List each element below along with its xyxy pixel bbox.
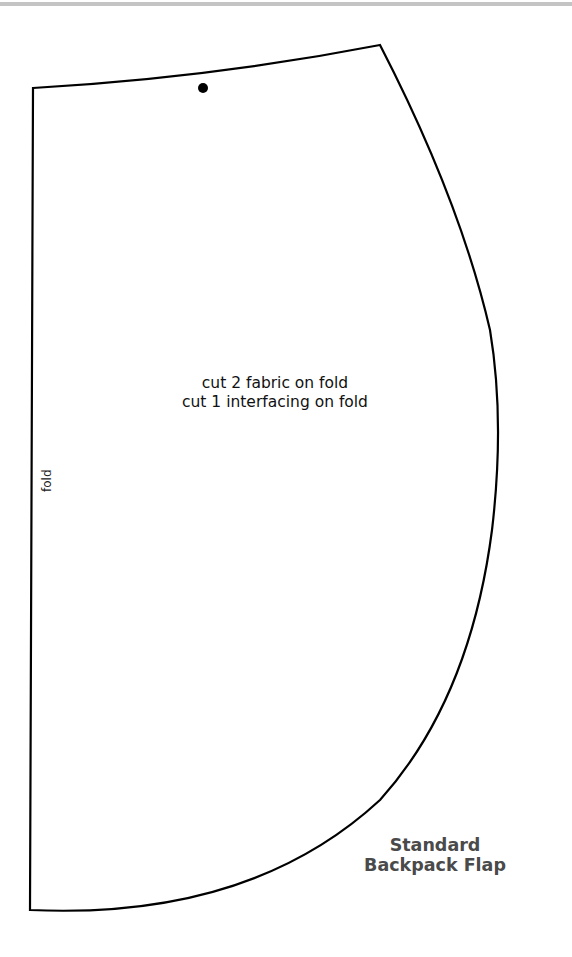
pattern-piece-outline [30, 45, 498, 911]
fold-label: fold [40, 469, 54, 492]
pattern-title: Standard Backpack Flap [360, 835, 510, 875]
cutting-instructions: cut 2 fabric on fold cut 1 interfacing o… [150, 374, 400, 412]
title-line-2: Backpack Flap [360, 855, 510, 875]
title-line-1: Standard [360, 835, 510, 855]
instruction-line-1: cut 2 fabric on fold [150, 374, 400, 393]
placement-dot-icon [198, 83, 208, 93]
pattern-outline [0, 0, 572, 957]
instruction-line-2: cut 1 interfacing on fold [150, 393, 400, 412]
